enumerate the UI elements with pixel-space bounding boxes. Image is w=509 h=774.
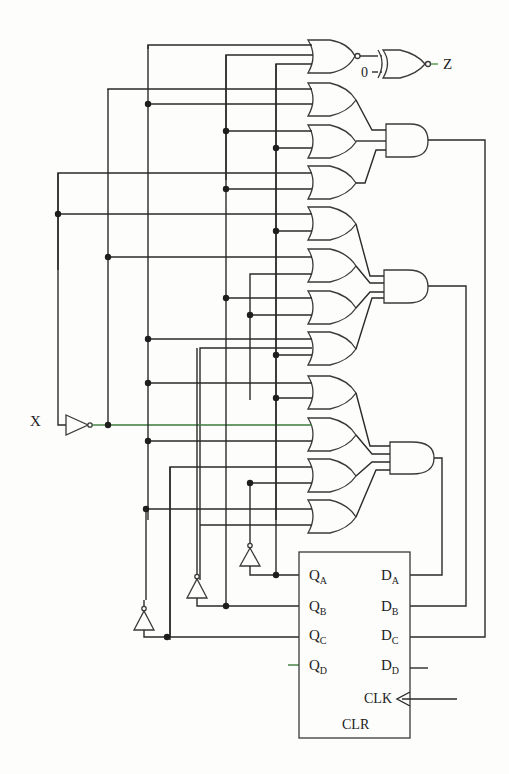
clr-label: CLR <box>342 718 369 732</box>
or-gate-1-2 <box>308 125 356 158</box>
or-gate-2-1 <box>308 207 356 240</box>
inverter-qb <box>187 574 207 598</box>
inverter-qa <box>240 543 260 566</box>
input-x-inverter <box>66 415 92 435</box>
and-gate-1 <box>386 124 428 157</box>
and-gate-2 <box>384 270 428 303</box>
or-gate-1-1 <box>308 83 356 116</box>
output-z-label: Z <box>443 57 452 72</box>
or-gate-3-1 <box>308 376 356 409</box>
logic-circuit-diagram: X Z 0 QA QB QC QD DA DB DC DD CLK CLR <box>0 0 509 774</box>
inverter-qc <box>134 606 154 630</box>
dd-label: DD <box>381 658 399 673</box>
db-label: DB <box>381 599 399 614</box>
or-gate-3-4 <box>308 500 356 533</box>
qb-label: QB <box>309 599 327 614</box>
da-label: DA <box>381 568 399 583</box>
or-gate-2-4 <box>308 332 356 365</box>
or-gate-1-3 <box>308 166 356 199</box>
input-x-label: X <box>30 414 41 429</box>
constant-zero-label: 0 <box>361 66 368 80</box>
dc-label: DC <box>381 628 399 643</box>
qd-label: QD <box>309 658 327 673</box>
and-gate-3 <box>390 442 434 474</box>
qa-label: QA <box>309 568 327 583</box>
or-gate-2-3 <box>308 291 356 324</box>
or-gate-2-2 <box>308 249 356 282</box>
or-gate-3-3 <box>308 459 356 492</box>
output-xnor-gate <box>378 50 431 78</box>
top-nor-gate <box>308 40 360 73</box>
circuit-wiring <box>0 0 509 774</box>
clk-label: CLK <box>364 692 392 706</box>
or-gate-3-2 <box>308 418 356 451</box>
qc-label: QC <box>309 628 327 643</box>
